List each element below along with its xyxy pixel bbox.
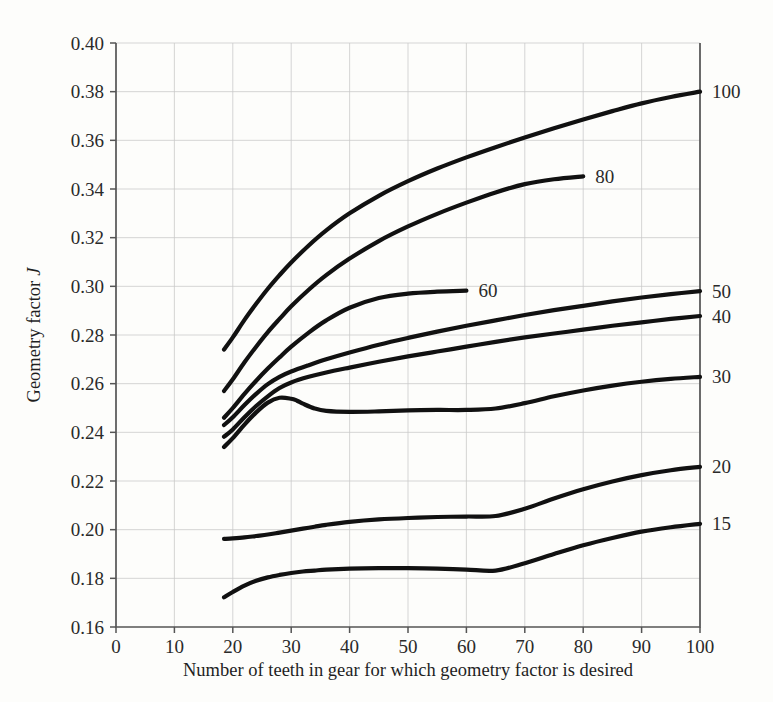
x-tick-label: 60 <box>457 636 476 657</box>
curve-label-100: 100 <box>712 81 741 102</box>
gear-geometry-factor-chart: 0.160.180.200.220.240.260.280.300.320.34… <box>0 0 773 702</box>
curve-label-40: 40 <box>712 306 731 327</box>
y-tick-label: 0.36 <box>71 130 104 151</box>
x-tick-label: 20 <box>223 636 242 657</box>
curve-label-60: 60 <box>478 280 497 301</box>
y-axis-title-group: Geometry factorJ <box>24 267 44 403</box>
y-tick-label: 0.18 <box>71 568 104 589</box>
x-tick-label: 70 <box>515 636 534 657</box>
chart-svg: 0.160.180.200.220.240.260.280.300.320.34… <box>0 0 773 702</box>
curve-label-80: 80 <box>595 166 614 187</box>
x-tick-label: 0 <box>111 636 121 657</box>
x-tick-label: 90 <box>632 636 651 657</box>
y-axis-title: Geometry factorJ <box>24 267 44 403</box>
x-tick-label: 100 <box>686 636 715 657</box>
y-tick-label: 0.34 <box>71 179 105 200</box>
x-tick-label: 50 <box>399 636 418 657</box>
y-tick-label: 0.16 <box>71 617 104 638</box>
y-tick-label: 0.32 <box>71 227 104 248</box>
y-tick-label: 0.24 <box>71 422 105 443</box>
y-tick-label: 0.28 <box>71 325 104 346</box>
x-tick-label: 80 <box>574 636 593 657</box>
y-tick-label: 0.20 <box>71 519 104 540</box>
y-tick-label: 0.26 <box>71 373 104 394</box>
y-tick-label: 0.22 <box>71 471 104 492</box>
curve-label-15: 15 <box>712 513 731 534</box>
y-tick-label: 0.38 <box>71 81 104 102</box>
x-tick-label: 10 <box>165 636 184 657</box>
curve-label-50: 50 <box>712 281 731 302</box>
x-axis-title: Number of teeth in gear for which geomet… <box>183 660 634 680</box>
y-tick-label: 0.40 <box>71 33 104 54</box>
y-tick-label: 0.30 <box>71 276 104 297</box>
curve-label-30: 30 <box>712 366 731 387</box>
x-tick-label: 40 <box>340 636 359 657</box>
curve-label-20: 20 <box>712 456 731 477</box>
x-tick-label: 30 <box>282 636 301 657</box>
